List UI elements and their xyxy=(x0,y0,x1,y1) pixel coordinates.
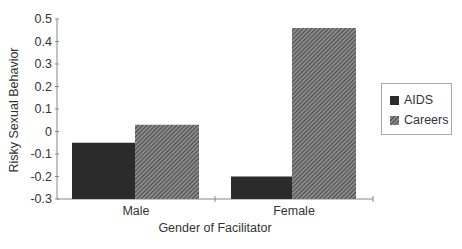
y-tick-label: 0.4 xyxy=(35,35,52,49)
bar-careers-female xyxy=(292,28,356,199)
legend-item-aids: AIDS xyxy=(390,93,433,107)
y-tick-label: 0.2 xyxy=(35,80,52,94)
legend-label: Careers xyxy=(404,113,448,127)
y-axis-label: Risky Sexual Behavior xyxy=(7,47,21,172)
bar-aids-male xyxy=(72,143,135,199)
legend-swatch-hatch-icon xyxy=(390,116,399,125)
y-tick-label: -0.1 xyxy=(30,147,52,161)
x-axis-label: Gender of Facilitator xyxy=(158,221,271,235)
legend-label: AIDS xyxy=(404,93,433,107)
legend: AIDS Careers xyxy=(381,83,452,135)
y-tick-label: -0.3 xyxy=(30,192,52,206)
y-tick-label: 0.5 xyxy=(35,12,52,26)
y-tick-label: -0.2 xyxy=(30,170,52,184)
y-tick-label: 0.3 xyxy=(35,57,52,71)
bar-aids-female xyxy=(231,177,292,200)
category-label-male: Male xyxy=(122,204,149,218)
bar-chart: 0.50.40.30.20.10-0.1-0.2-0.3 Risky Sexua… xyxy=(0,0,462,249)
y-tick-label: 0.1 xyxy=(35,102,52,116)
legend-swatch-solid-icon xyxy=(390,96,399,105)
y-tick-label: 0 xyxy=(45,125,52,139)
bar-careers-male xyxy=(135,125,199,199)
legend-item-careers: Careers xyxy=(390,113,448,127)
bars xyxy=(72,28,356,199)
category-label-female: Female xyxy=(273,204,315,218)
